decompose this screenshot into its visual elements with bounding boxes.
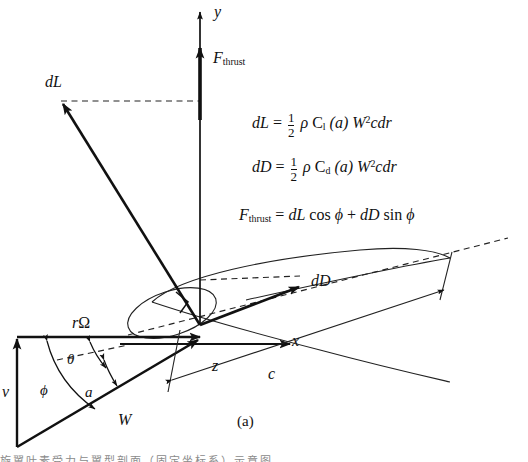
- fraction-numerator: 1: [288, 111, 295, 125]
- cosine-function: cos: [309, 206, 330, 223]
- y-axis-label: y: [214, 4, 221, 20]
- attack-angle-arc: [104, 360, 117, 386]
- density-symbol-drag: ρ: [303, 158, 311, 175]
- lift-coefficient-argument: (a): [330, 114, 349, 131]
- lift-equation: dL = 1 2 ρ Cl (a) W2cdr: [252, 111, 392, 139]
- thrust-equation-lhs-subscript: thrust: [249, 213, 272, 224]
- drag-coefficient-argument: (a): [334, 158, 353, 175]
- thrust-subscript: thrust: [223, 56, 246, 67]
- airfoil-planform: [152, 248, 450, 382]
- attack-angle-label: a: [85, 385, 93, 400]
- blade-element-diagram: [0, 0, 528, 462]
- x-axis-label: x: [292, 333, 299, 349]
- drag-lhs: dD: [252, 158, 272, 175]
- resultant-velocity-label: W: [118, 412, 131, 428]
- chord-tick-leading: [168, 330, 180, 392]
- figure-caption: (a): [237, 414, 254, 429]
- dashed-construction-lines: [57, 101, 508, 360]
- thrust-equation: Fthrust = dL cos ϕ + dD sin ϕ: [239, 207, 414, 224]
- figure-canvas: y Fthrust dL dD x z v rΩ W θ ϕ a c (a) d…: [0, 0, 528, 462]
- plus-operator: +: [347, 206, 356, 223]
- thrust-label: Fthrust: [213, 50, 245, 67]
- sine-angle: ϕ: [406, 206, 414, 223]
- lift-lhs: dL: [252, 114, 269, 131]
- cosine-angle: ϕ: [335, 206, 343, 223]
- cropped-caption-text: 旋翼叶素受力与翼型剖面（固定坐标系）示意图: [0, 452, 528, 462]
- drag-vector: [200, 287, 299, 325]
- one-half-fraction-lift: 1 2: [288, 111, 295, 139]
- thrust-equation-lhs: F: [239, 206, 249, 223]
- lift-coefficient-symbol: C: [312, 114, 323, 131]
- sine-function: sin: [384, 206, 403, 223]
- drag-coefficient-subscript: d: [325, 165, 330, 176]
- tangential-velocity-label: rΩ: [72, 315, 90, 331]
- pitch-angle-arc: [90, 342, 106, 368]
- lift-vector: [63, 104, 200, 325]
- lift-tail-terms: cdr: [371, 114, 392, 131]
- density-symbol-lift: ρ: [300, 114, 308, 131]
- thrust-term-lift: dL: [288, 206, 305, 223]
- drag-equals: =: [276, 158, 285, 175]
- tip-section-outline: [246, 258, 450, 300]
- axial-velocity-label: v: [2, 384, 9, 400]
- lift-equals: =: [273, 114, 282, 131]
- relative-velocity-symbol-drag: W: [357, 158, 370, 175]
- z-axis-label: z: [212, 358, 218, 374]
- inflow-angle-label: ϕ: [40, 383, 48, 398]
- fraction-denominator: 2: [291, 169, 298, 184]
- drag-tail-terms: cdr: [375, 158, 396, 175]
- fraction-denominator: 2: [288, 125, 295, 140]
- thrust-term-drag: dD: [360, 206, 380, 223]
- chord-label: c: [268, 366, 275, 382]
- drag-label: dD: [311, 273, 331, 289]
- relative-velocity-symbol-lift: W: [352, 114, 365, 131]
- one-half-fraction-drag: 1 2: [291, 155, 298, 183]
- lift-coefficient-subscript: l: [323, 121, 326, 132]
- drag-equation: dD = 1 2 ρ Cd (a) W2cdr: [252, 155, 397, 183]
- pitch-angle-label: θ: [67, 352, 74, 367]
- drag-coefficient-symbol: C: [315, 158, 326, 175]
- thrust-equals: =: [275, 206, 284, 223]
- thrust-symbol: F: [213, 49, 223, 66]
- dashed-horizontal-upper: [200, 276, 300, 280]
- fraction-numerator: 1: [291, 155, 298, 169]
- angle-arcs: [47, 341, 117, 409]
- lift-label: dL: [45, 74, 62, 90]
